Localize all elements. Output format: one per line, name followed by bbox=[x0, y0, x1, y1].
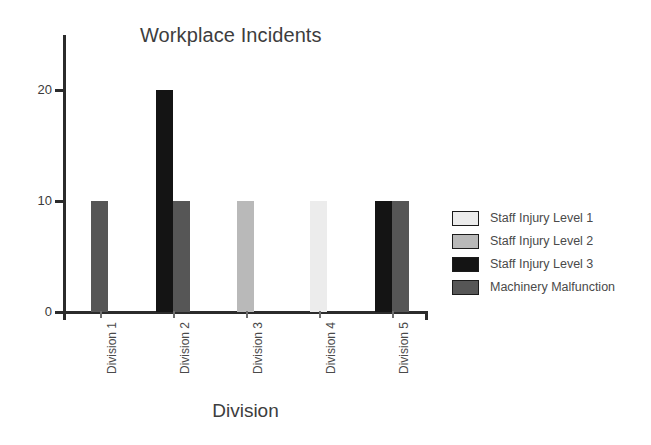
x-axis-tick bbox=[319, 311, 321, 318]
y-axis-tick-label-wrap: 20 bbox=[16, 90, 52, 91]
y-axis-tick-label-wrap: 0 bbox=[16, 312, 52, 313]
y-axis-tick-label: 0 bbox=[24, 304, 52, 319]
legend-item[interactable]: Staff Injury Level 3 bbox=[452, 253, 615, 275]
x-axis-right-cap bbox=[425, 311, 428, 320]
legend-label: Staff Injury Level 2 bbox=[490, 234, 593, 248]
bar bbox=[173, 201, 190, 312]
x-axis-label-division-3: Division 3 bbox=[251, 322, 265, 374]
x-axis-title: Division bbox=[63, 400, 428, 422]
bar bbox=[310, 201, 327, 312]
x-axis-label-division-1: Division 1 bbox=[105, 322, 119, 374]
legend-label: Staff Injury Level 3 bbox=[490, 257, 593, 271]
bar bbox=[91, 201, 108, 312]
x-axis-tick bbox=[246, 311, 248, 318]
x-axis-label-division-5: Division 5 bbox=[397, 322, 411, 374]
legend-swatch-icon bbox=[452, 211, 479, 226]
legend-label: Machinery Malfunction bbox=[490, 280, 615, 294]
legend-item[interactable]: Staff Injury Level 2 bbox=[452, 230, 615, 252]
legend-label: Staff Injury Level 1 bbox=[490, 211, 593, 225]
bar-chart: Workplace Incidents 01020 Division 1Divi… bbox=[0, 0, 651, 445]
y-axis-tick-label-wrap: 10 bbox=[16, 201, 52, 202]
bars-layer bbox=[63, 35, 428, 312]
x-axis-tick bbox=[173, 311, 175, 318]
legend-swatch-icon bbox=[452, 257, 479, 272]
legend-item[interactable]: Staff Injury Level 1 bbox=[452, 207, 615, 229]
x-axis-tick bbox=[392, 311, 394, 318]
legend: Staff Injury Level 1Staff Injury Level 2… bbox=[452, 207, 615, 299]
y-axis-tick-label: 10 bbox=[24, 193, 52, 208]
bar bbox=[392, 201, 409, 312]
legend-swatch-icon bbox=[452, 280, 479, 295]
x-axis-tick bbox=[100, 311, 102, 318]
legend-swatch-icon bbox=[452, 234, 479, 249]
y-axis-tick-label: 20 bbox=[24, 82, 52, 97]
bar bbox=[375, 201, 392, 312]
legend-item[interactable]: Machinery Malfunction bbox=[452, 276, 615, 298]
bar bbox=[237, 201, 254, 312]
x-axis-label-division-2: Division 2 bbox=[178, 322, 192, 374]
bar bbox=[156, 90, 173, 312]
x-axis-label-division-4: Division 4 bbox=[324, 322, 338, 374]
